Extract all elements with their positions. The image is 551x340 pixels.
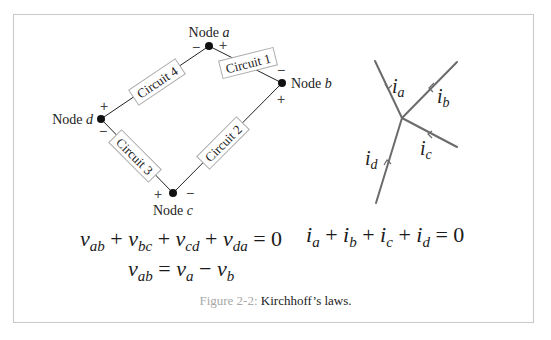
- vab-lhs-var: v: [128, 256, 138, 281]
- node-d-dot: [97, 115, 105, 123]
- kvl-term-1-var: v: [80, 226, 90, 251]
- kcl-term-1-sub: a: [312, 234, 320, 250]
- current-ic-label: ic: [420, 137, 433, 162]
- node-c-dot: [169, 189, 177, 197]
- kcl-equation: ia + ib + ic + id = 0: [306, 222, 464, 248]
- figure-caption: Figure 2-2: Kirchhoff’s laws.: [0, 293, 551, 309]
- kcl-plus-3: +: [398, 222, 410, 247]
- polarity-c-minus: −: [186, 185, 194, 201]
- kvl-term-3-var: v: [176, 226, 186, 251]
- polarity-c-plus: +: [154, 186, 162, 202]
- polarity-a-minus: −: [192, 39, 200, 55]
- vab-va-var: v: [176, 256, 186, 281]
- kcl-term-4-sub: d: [422, 234, 430, 250]
- polarity-b-plus: +: [277, 91, 285, 107]
- kvl-term-2-var: v: [128, 226, 138, 251]
- vab-lhs-sub: ab: [138, 268, 153, 284]
- current-ib-label: ib: [437, 85, 450, 110]
- node-a-dot: [205, 42, 213, 50]
- kirchhoff-diagram: Circuit 1 Circuit 2 Circuit 3 Circuit 4 …: [0, 0, 551, 340]
- vab-vb-sub: b: [227, 268, 235, 284]
- kcl-plus-1: +: [325, 222, 337, 247]
- circuit-2-label: Circuit 2: [202, 122, 245, 165]
- figure-caption-text: Kirchhoff’s laws.: [261, 293, 352, 308]
- circuit-3-label: Circuit 3: [113, 135, 156, 178]
- node-d-label: Node d: [52, 112, 94, 127]
- kcl-term-3-sub: c: [386, 234, 393, 250]
- kvl-rhs: = 0: [253, 226, 282, 251]
- junction-diagram: [375, 61, 457, 203]
- circuit-2-box: Circuit 2: [197, 117, 249, 169]
- kcl-term-2-sub: b: [349, 234, 357, 250]
- polarity-b-minus: −: [277, 62, 285, 78]
- branch-d: [376, 118, 402, 203]
- vab-vb-var: v: [217, 256, 227, 281]
- node-c-label: Node c: [153, 203, 194, 218]
- kvl-term-1-sub: ab: [90, 238, 105, 254]
- node-b-label: Node b: [291, 76, 332, 91]
- kvl-term-4-sub: da: [233, 238, 248, 254]
- kvl-plus-3: +: [205, 226, 217, 251]
- circuit-1-box: Circuit 1: [219, 47, 278, 78]
- kvl-term-2-sub: bc: [138, 238, 152, 254]
- current-id-label: id: [365, 147, 379, 172]
- polarity-d-plus: +: [100, 98, 108, 114]
- arrow-ia-icon: [385, 84, 392, 89]
- vab-minus: −: [199, 256, 211, 281]
- polarity-d-minus: −: [99, 123, 107, 139]
- current-ia-label: ia: [392, 75, 405, 100]
- circuit-4-box: Circuit 4: [129, 59, 185, 105]
- circuit-3-box: Circuit 3: [109, 130, 161, 182]
- vab-equation: vab = va − vb: [128, 256, 234, 282]
- polarity-a-plus: +: [219, 37, 227, 53]
- kvl-equation: vab + vbc + vcd + vda = 0: [80, 226, 282, 252]
- kvl-term-3-sub: cd: [185, 238, 199, 254]
- kcl-rhs: = 0: [435, 222, 464, 247]
- node-b-dot: [278, 79, 286, 87]
- vab-equals: =: [158, 256, 170, 281]
- kcl-plus-2: +: [362, 222, 374, 247]
- kvl-plus-2: +: [158, 226, 170, 251]
- figure-label: Figure 2-2:: [199, 293, 257, 308]
- kvl-plus-1: +: [110, 226, 122, 251]
- kvl-term-4-var: v: [223, 226, 233, 251]
- vab-va-sub: a: [186, 268, 194, 284]
